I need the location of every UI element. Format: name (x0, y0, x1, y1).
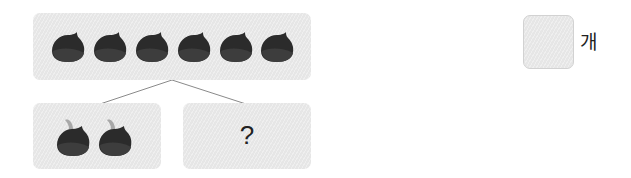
answer-input-box[interactable] (523, 15, 574, 69)
chestnut-stem-icon (97, 117, 133, 157)
chestnut-icon (260, 31, 294, 63)
unknown-part-box: ? (183, 103, 311, 169)
known-part-box (33, 103, 161, 169)
chestnut-icon (51, 31, 85, 63)
question-mark: ? (183, 120, 311, 150)
chestnut-stem-icon (55, 117, 91, 157)
connector-line-right (172, 80, 246, 104)
chestnut-icon (135, 31, 169, 63)
chestnut-icon (219, 31, 253, 63)
answer-unit-label: 개 (580, 30, 597, 54)
chestnut-icon (93, 31, 127, 63)
chestnut-icon (177, 31, 211, 63)
connector-line-left (100, 80, 172, 104)
total-group-box (33, 13, 311, 80)
